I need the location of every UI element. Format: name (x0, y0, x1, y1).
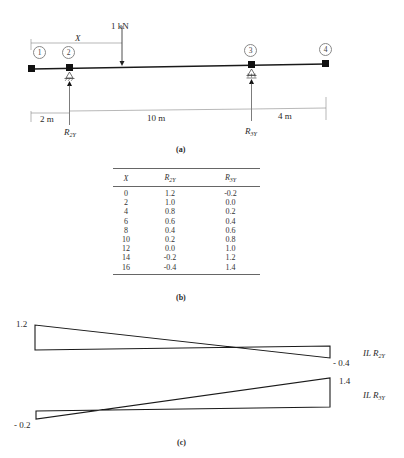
table-row: 60.60.4 (113, 217, 260, 226)
il-r2y-left-value: 1.2 (16, 320, 27, 329)
il-r2y-right-value: - 0.4 (333, 359, 350, 368)
table-row: 80.40.6 (113, 226, 260, 235)
caption-a: (a) (176, 146, 185, 154)
table-row: 120.01.0 (113, 244, 260, 253)
reaction-table: X R2Y R3Y 01.2-0.2 21.00.0 40.80.2 60.60… (113, 168, 260, 275)
table-header-row: X R2Y R3Y (113, 169, 260, 187)
column-header-x: X (113, 169, 139, 187)
il-r3y-diagram (36, 378, 330, 419)
node-label-4: 4 (319, 43, 332, 56)
load-label: 1 kN (111, 22, 129, 31)
position-label-x: X (75, 34, 81, 43)
il-r3y-label: IL R3Y (363, 391, 385, 401)
support-node-3 (247, 69, 257, 121)
node-label-2: 2 (62, 46, 75, 59)
reaction-label-r3y: R3Y (245, 127, 257, 137)
dimension-label-2m: 2 m (40, 115, 54, 124)
node-label-1: 1 (33, 46, 46, 59)
il-r3y-left-value: - 0.2 (14, 421, 31, 430)
caption-b: (b) (176, 294, 186, 302)
table-row: 100.20.8 (113, 235, 260, 244)
dimension-label-4m: 4 m (278, 112, 292, 121)
column-header-r3y: R3Y (201, 169, 260, 187)
table-row: 40.80.2 (113, 207, 260, 216)
column-header-r2y: R2Y (139, 169, 201, 187)
node-label-3: 3 (244, 44, 257, 57)
support-node-2 (65, 72, 75, 125)
reaction-label-r2y: R2Y (64, 128, 76, 138)
il-r2y-diagram (35, 325, 330, 358)
node-2-marker (66, 64, 73, 71)
table-row: 01.2-0.2 (113, 187, 260, 199)
table-row: 14-0.21.2 (113, 253, 260, 262)
il-r3y-right-value: 1.4 (339, 377, 350, 386)
dimension-label-10m: 10 m (147, 114, 165, 123)
node-1-marker (28, 65, 35, 72)
node-3-marker (248, 61, 255, 68)
table-row: 21.00.0 (113, 198, 260, 207)
il-r2y-label: IL R2Y (363, 349, 385, 359)
node-4-marker (322, 60, 329, 67)
caption-c: (c) (177, 439, 186, 447)
table-row: 16-0.41.4 (113, 263, 260, 275)
beam (32, 64, 326, 69)
